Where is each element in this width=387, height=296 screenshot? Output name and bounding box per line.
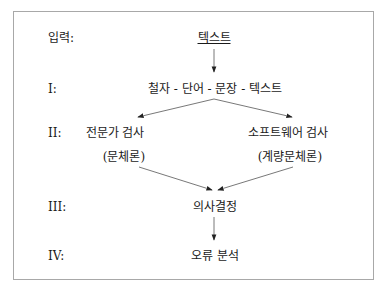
- level-label-II: II:: [48, 126, 62, 140]
- arrow-stylistics-to-decision: [139, 167, 212, 190]
- node-stylistics: (문체론): [103, 150, 145, 164]
- level-label-III: III:: [48, 200, 66, 214]
- node-decision: 의사결정: [193, 200, 237, 214]
- node-software-check: 소프트웨어 검사: [248, 126, 329, 140]
- arrow-stylometry-to-decision: [218, 167, 293, 190]
- arrow-I-to-software: [214, 99, 292, 117]
- node-expert-check: 전문가 검사: [86, 126, 145, 140]
- level-label-IV: IV:: [48, 249, 64, 263]
- level-label-input: 입력:: [48, 31, 74, 45]
- arrow-I-to-expert: [138, 99, 214, 117]
- node-text: 텍스트: [198, 31, 231, 45]
- node-stylometry: (계량문체론): [258, 150, 322, 164]
- node-error-analysis: 오류 분석: [191, 249, 239, 263]
- level-label-I: I:: [48, 82, 57, 96]
- node-spelling-word-sentence-text: 철자 - 단어 - 문장 - 텍스트: [148, 82, 282, 96]
